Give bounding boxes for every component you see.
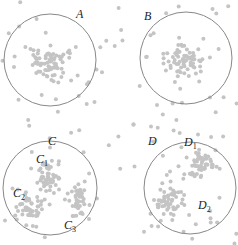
data-point	[16, 209, 20, 213]
data-point	[25, 208, 29, 212]
data-point	[194, 222, 198, 226]
data-point	[43, 68, 47, 72]
data-point	[17, 98, 21, 102]
data-point	[13, 214, 17, 218]
subcluster-c3-label: C3	[64, 218, 76, 234]
data-point	[77, 200, 81, 204]
data-point	[234, 232, 238, 236]
data-point	[46, 172, 50, 176]
data-point	[59, 75, 63, 79]
data-point	[28, 213, 32, 217]
data-point	[199, 70, 203, 74]
region-c-label: C	[48, 134, 57, 148]
data-point	[161, 154, 165, 158]
data-point	[177, 36, 181, 40]
data-point	[29, 167, 33, 171]
data-point	[67, 199, 71, 203]
data-point	[81, 200, 85, 204]
data-point	[40, 171, 44, 175]
data-point	[39, 177, 43, 181]
data-point	[195, 172, 199, 176]
data-point	[181, 198, 185, 202]
data-point	[13, 54, 17, 58]
data-point	[187, 74, 191, 78]
data-point	[118, 167, 122, 171]
data-point	[189, 63, 193, 67]
data-point	[197, 79, 201, 83]
data-point	[31, 224, 35, 228]
data-point	[142, 230, 146, 234]
data-point	[43, 183, 47, 187]
data-point	[39, 188, 43, 192]
data-point	[170, 198, 174, 202]
data-point	[171, 188, 175, 192]
subcluster-d1-label: D1	[183, 135, 197, 151]
data-point	[201, 37, 205, 41]
data-point	[93, 100, 97, 104]
data-point	[179, 145, 183, 149]
data-point	[119, 28, 123, 32]
data-point	[186, 67, 190, 71]
data-point	[31, 53, 35, 57]
data-point	[26, 118, 30, 122]
data-point	[174, 118, 178, 122]
region-b-label: B	[144, 9, 152, 23]
data-point	[67, 56, 71, 60]
data-point	[215, 165, 219, 169]
data-point	[49, 44, 53, 48]
data-point	[88, 203, 92, 207]
data-point	[176, 74, 180, 78]
data-point	[27, 124, 31, 128]
data-point	[152, 198, 156, 202]
data-point	[87, 217, 91, 221]
data-point	[52, 191, 56, 195]
data-point	[179, 190, 183, 194]
data-point	[60, 55, 64, 59]
data-point	[161, 113, 165, 117]
data-point	[46, 52, 50, 56]
data-point	[168, 169, 172, 173]
data-point	[164, 11, 168, 15]
data-point	[182, 71, 186, 75]
data-point	[182, 203, 186, 207]
data-point	[185, 156, 189, 160]
data-point	[20, 212, 24, 216]
data-point	[50, 181, 54, 185]
data-point	[214, 110, 218, 114]
data-point	[167, 60, 171, 64]
subcluster-c1-label: C1	[36, 152, 48, 168]
data-point	[56, 110, 60, 114]
data-point	[18, 203, 22, 207]
data-point	[50, 159, 54, 163]
data-point	[36, 49, 40, 53]
data-point	[68, 51, 72, 55]
data-point	[169, 180, 173, 184]
data-point	[179, 43, 183, 47]
data-point	[162, 61, 166, 65]
data-point	[162, 56, 166, 60]
data-point	[218, 196, 222, 200]
data-point	[173, 207, 177, 211]
data-point	[138, 84, 142, 88]
data-point	[182, 172, 186, 176]
data-point	[198, 64, 202, 68]
data-point	[107, 143, 111, 147]
data-point	[187, 213, 191, 217]
data-point	[165, 51, 169, 55]
data-point	[182, 193, 186, 197]
data-point	[170, 218, 174, 222]
data-point	[116, 135, 120, 139]
data-point	[34, 209, 38, 213]
data-point	[56, 81, 60, 85]
data-point	[80, 211, 84, 215]
data-point	[40, 93, 44, 97]
data-point	[156, 126, 160, 130]
data-point	[217, 47, 221, 51]
subcluster-c2-label: C2	[13, 186, 25, 202]
data-point	[185, 48, 189, 52]
data-point	[167, 203, 171, 207]
data-point	[171, 192, 175, 196]
data-point	[192, 54, 196, 58]
data-point	[75, 203, 79, 207]
data-point	[76, 74, 80, 78]
